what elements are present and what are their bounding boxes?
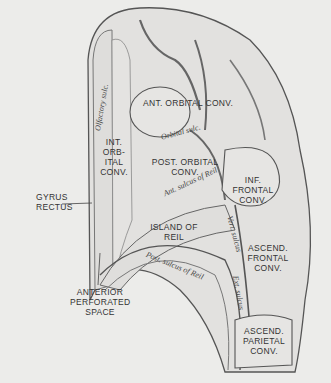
- label-text: ISLAND OF REIL: [150, 222, 198, 242]
- label-text: ANTERIOR PERFORATED SPACE: [70, 287, 130, 317]
- label-ant-orbital-conv: ANT. ORBITAL CONV.: [143, 98, 233, 108]
- label-anterior-perforated-space: ANTERIOR PERFORATED SPACE: [70, 287, 130, 317]
- label-text: ANT. ORBITAL CONV.: [143, 98, 233, 108]
- label-int-orbital-conv: INT. ORB- ITAL CONV.: [98, 137, 130, 177]
- label-text: GYRUS RECTUS: [36, 192, 73, 212]
- label-gyrus-rectus: GYRUS RECTUS: [36, 192, 66, 212]
- label-text: ASCEND. PARIETAL CONV.: [243, 326, 285, 356]
- label-inf-frontal-conv: INF. FRONTAL CONV.: [228, 175, 278, 205]
- label-text: INT. ORB- ITAL CONV.: [100, 137, 128, 177]
- label-ascend-frontal-conv: ASCEND. FRONTAL CONV.: [240, 243, 296, 273]
- label-text: ASCEND. FRONTAL CONV.: [247, 243, 288, 273]
- label-ascend-parietal-conv: ASCEND. PARIETAL CONV.: [236, 326, 292, 356]
- label-island-of-reil: ISLAND OF REIL: [150, 222, 198, 242]
- label-text: INF. FRONTAL CONV.: [232, 175, 273, 205]
